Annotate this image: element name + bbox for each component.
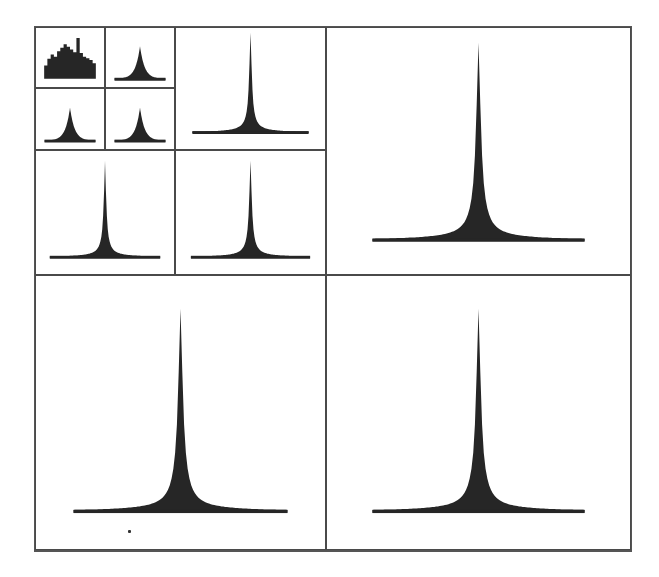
noise-speck xyxy=(128,530,131,533)
histogram-baseline xyxy=(191,256,310,258)
histogram-plot xyxy=(176,28,325,149)
histogram-panel-level2-b xyxy=(175,27,326,150)
histogram-baseline xyxy=(115,78,166,80)
histogram-panel-level3-b xyxy=(105,27,175,88)
histogram-baseline xyxy=(74,510,288,513)
histogram-baseline xyxy=(45,140,96,142)
histogram-baseline xyxy=(192,131,308,133)
histogram-plot xyxy=(36,89,104,149)
histogram-plot xyxy=(327,28,630,274)
histogram-shape xyxy=(45,108,96,143)
histogram-shape xyxy=(191,161,310,259)
histogram-shape xyxy=(115,108,166,143)
histogram-baseline xyxy=(372,510,584,513)
histogram-shape xyxy=(372,43,584,242)
histogram-panel-level2-c xyxy=(35,150,175,275)
histogram-panel-level3-c xyxy=(35,88,105,150)
histogram-shape xyxy=(50,161,160,259)
histogram-panel-level3-d xyxy=(105,88,175,150)
histogram-shape xyxy=(44,38,96,79)
histogram-shape xyxy=(115,46,166,80)
histogram-shape xyxy=(372,309,584,513)
histogram-shape xyxy=(192,33,308,134)
histogram-plot xyxy=(36,28,104,87)
histogram-panel-level1-b xyxy=(326,27,631,275)
histogram-plot xyxy=(176,151,325,274)
histogram-plot xyxy=(36,151,174,274)
histogram-shape xyxy=(74,309,288,513)
histogram-plot xyxy=(106,28,174,87)
histogram-plot xyxy=(327,276,630,549)
histogram-baseline xyxy=(115,140,166,142)
histogram-baseline xyxy=(372,239,584,242)
histogram-panel-level3-a xyxy=(35,27,105,88)
histogram-panel-level1-c xyxy=(35,275,326,550)
histogram-plot xyxy=(106,89,174,149)
histogram-panel-level2-d xyxy=(175,150,326,275)
histogram-panel-level1-d xyxy=(326,275,631,550)
histogram-plot xyxy=(36,276,325,549)
histogram-baseline xyxy=(50,256,160,258)
